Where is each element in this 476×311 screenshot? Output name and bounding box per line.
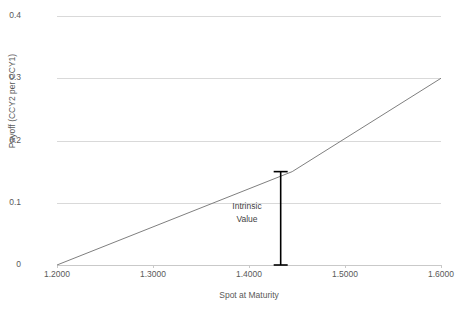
x-tick-label-4: 1.6000: [406, 269, 476, 279]
x-tick-label-2: 1.4000: [214, 269, 284, 279]
payoff-chart: 0.4 0.3 0.2 0.1 0 Payoff (CCY2 per CCY1)…: [0, 0, 476, 311]
x-tick-label-3: 1.5000: [310, 269, 380, 279]
y-tick-label-0: 0.4: [0, 11, 21, 20]
gridline-0.3: [57, 78, 441, 79]
x-axis-title: Spot at Maturity: [57, 290, 441, 300]
x-tick-label-0: 1.2000: [22, 269, 92, 279]
intrinsic-value-label-line2: Value: [216, 213, 278, 226]
intrinsic-value-label: Intrinsic Value: [216, 200, 278, 226]
x-tick-mark-4: [441, 265, 442, 268]
gridline-0.2: [57, 141, 441, 142]
x-tick-mark-1: [153, 265, 154, 268]
x-tick-mark-0: [57, 265, 58, 268]
x-tick-label-1: 1.3000: [118, 269, 188, 279]
plot-area: [57, 16, 441, 265]
x-tick-mark-3: [345, 265, 346, 268]
x-tick-mark-2: [249, 265, 250, 268]
y-tick-label-3: 0.1: [0, 198, 21, 207]
y-tick-label-4: 0: [0, 260, 21, 269]
y-axis-title: Payoff (CCY2 per CCY1): [7, 36, 17, 166]
intrinsic-value-label-line1: Intrinsic: [216, 200, 278, 213]
gridline-0.4: [57, 16, 441, 17]
